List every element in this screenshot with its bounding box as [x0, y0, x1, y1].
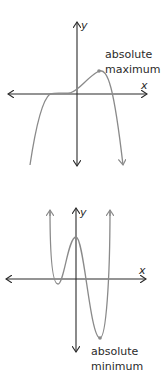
absolute-minimum-point: [98, 336, 102, 340]
annotation-line-1: absolute: [91, 345, 139, 358]
absolute-minimum-graph: y x absolute minimum: [6, 206, 146, 373]
absolute-maximum-graph: y x absolute maximum: [8, 19, 160, 166]
function-curve: [50, 210, 110, 338]
y-axis-label: y: [79, 206, 87, 219]
x-axis-label: x: [140, 79, 148, 92]
y-axis-label: y: [80, 19, 88, 32]
annotation-line-2: maximum: [105, 63, 160, 76]
diagram-canvas: y x absolute maximum y x absolute minimu…: [0, 0, 163, 392]
absolute-maximum-point: [97, 69, 101, 73]
x-axis-label: x: [138, 264, 146, 277]
annotation-line-1: absolute: [105, 48, 153, 61]
annotation-line-2: minimum: [91, 360, 143, 373]
